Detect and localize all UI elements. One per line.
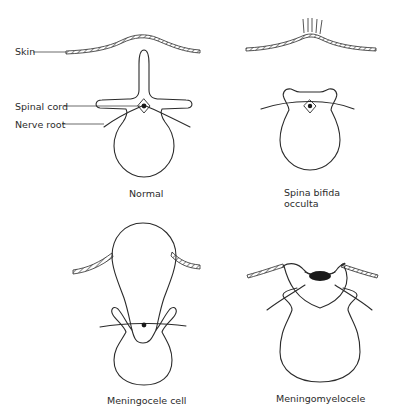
nerve-root-left — [267, 285, 305, 310]
spinal-cord — [308, 104, 312, 108]
caption-meningomyelocele: Meningomyelocele — [276, 393, 365, 404]
hair-tuft — [303, 18, 322, 34]
skin-layer-left — [247, 264, 284, 278]
spina-bifida-diagram: Skin Spinal cord Nerve root Normal Spina… — [0, 0, 398, 419]
skin-layer-left — [73, 253, 113, 274]
skin-layer — [66, 35, 200, 54]
nerve-root-right — [335, 285, 372, 310]
label-nerve-root: Nerve root — [15, 119, 65, 130]
caption-normal: Normal — [129, 188, 163, 199]
panel-spina-bifida-occulta — [246, 18, 376, 170]
vertebra-outline — [280, 288, 360, 382]
meningeal-sac — [112, 223, 176, 385]
vertebra-outline — [96, 50, 192, 177]
label-skin: Skin — [15, 46, 35, 57]
skin-layer — [246, 34, 376, 51]
caption-meningocele: Meningocele cell — [107, 395, 186, 406]
caption-spina-bifida-occulta-line1: Spina bifida — [284, 187, 340, 198]
panel-meningocele — [73, 223, 200, 385]
label-spinal-cord: Spinal cord — [15, 101, 68, 112]
sac-neck — [132, 330, 156, 343]
neural-placode — [309, 271, 331, 281]
spinal-cord — [142, 323, 147, 328]
caption-spina-bifida-occulta-line2: occulta — [284, 198, 318, 209]
panel-meningomyelocele — [247, 263, 378, 382]
spinal-cord — [142, 104, 147, 109]
